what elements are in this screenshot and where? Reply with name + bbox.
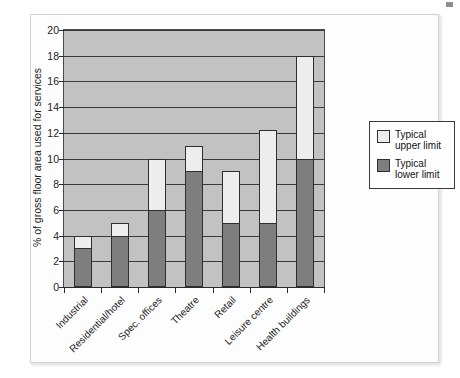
x-tick-mark <box>175 287 176 293</box>
y-axis-label: % of gross floor area used for services <box>29 29 45 286</box>
y-tick-label: 10 <box>47 153 59 164</box>
bar-segment-upper <box>259 130 277 223</box>
legend-swatch-lower-icon <box>377 159 390 172</box>
bar-slot: Retail <box>213 30 250 287</box>
bar-segment-lower <box>74 248 92 287</box>
bar-slot: Theatre <box>175 30 212 287</box>
bar-residential-hotel[interactable] <box>111 223 129 287</box>
y-tick-label: 20 <box>47 25 59 36</box>
y-tick-label: 12 <box>47 128 59 139</box>
x-tick-label: Retail <box>213 295 238 320</box>
chart-legend: Typical upper limit Typical lower limit <box>369 121 455 189</box>
scan-artifact-mark <box>446 2 453 7</box>
legend-item-lower: Typical lower limit <box>377 158 446 180</box>
legend-label-upper: Typical upper limit <box>395 129 446 151</box>
bar-segment-upper <box>111 223 129 236</box>
bar-segment-lower <box>148 210 166 287</box>
y-tick-label: 18 <box>47 50 59 61</box>
y-tick-label: 0 <box>53 282 59 293</box>
y-tick-label: 16 <box>47 76 59 87</box>
y-tick-label: 8 <box>53 179 59 190</box>
bar-segment-lower <box>185 171 203 287</box>
y-tick-label: 14 <box>47 102 59 113</box>
bar-segment-lower <box>296 159 314 287</box>
bar-retail[interactable] <box>222 171 240 287</box>
bar-slot: Residential/hotel <box>101 30 138 287</box>
legend-item-upper: Typical upper limit <box>377 129 446 151</box>
bar-industrial[interactable] <box>74 236 92 287</box>
bar-slot: Leisure centre <box>250 30 287 287</box>
bar-slot: Health buildings <box>287 30 324 287</box>
x-tick-label: Theatre <box>170 295 201 326</box>
y-tick-label: 2 <box>53 256 59 267</box>
x-tick-mark <box>213 287 214 293</box>
bar-segment-lower <box>111 236 129 287</box>
x-tick-mark <box>250 287 251 293</box>
bar-theatre[interactable] <box>185 146 203 287</box>
legend-label-lower: Typical lower limit <box>395 158 446 180</box>
bar-health-buildings[interactable] <box>296 56 314 287</box>
legend-swatch-upper-icon <box>377 130 390 143</box>
x-tick-mark <box>101 287 102 293</box>
bars-layer: IndustrialResidential/hotelSpec. offices… <box>64 30 324 287</box>
x-tick-mark <box>287 287 288 293</box>
bar-segment-upper <box>185 146 203 172</box>
y-tick-label: 6 <box>53 205 59 216</box>
x-tick-label: Industrial <box>54 295 90 331</box>
bar-slot: Spec. offices <box>138 30 175 287</box>
bar-segment-upper <box>222 171 240 222</box>
bar-segment-lower <box>259 223 277 287</box>
bar-leisure-centre[interactable] <box>259 130 277 287</box>
plot-area: 02468101214161820 IndustrialResidential/… <box>63 29 325 288</box>
bar-slot: Industrial <box>64 30 101 287</box>
x-tick-mark <box>64 287 65 293</box>
chart-figure: % of gross floor area used for services … <box>0 0 460 378</box>
bar-segment-lower <box>222 223 240 287</box>
bar-segment-upper <box>74 236 92 249</box>
bar-segment-upper <box>296 56 314 159</box>
y-tick-label: 4 <box>53 230 59 241</box>
x-tick-mark <box>138 287 139 293</box>
x-tick-mark <box>324 287 325 293</box>
bar-segment-upper <box>148 159 166 210</box>
bar-spec-offices[interactable] <box>148 159 166 288</box>
chart-frame: % of gross floor area used for services … <box>30 14 439 363</box>
